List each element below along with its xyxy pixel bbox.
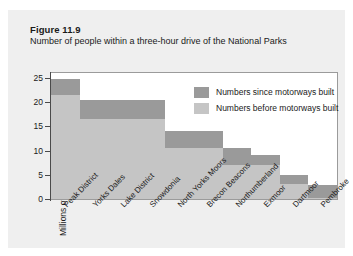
y-axis-tick-label: 15 — [34, 121, 43, 131]
legend-swatch-since — [194, 87, 209, 98]
bar-segment-since — [165, 131, 194, 148]
chart-legend: Numbers since motorways built Numbers be… — [194, 86, 338, 118]
y-axis-tick — [45, 175, 50, 176]
bar-column — [51, 73, 80, 199]
y-axis: 0510152025 — [50, 72, 51, 200]
y-axis-title-wrap: Millions of people within a 3 hour drive — [30, 76, 42, 200]
y-axis-tick — [45, 126, 50, 127]
y-axis-tick-label: 0 — [38, 194, 43, 204]
legend-item: Numbers since motorways built — [194, 86, 338, 98]
legend-item: Numbers before motorways built — [194, 102, 338, 114]
legend-label-since: Numbers since motorways built — [216, 87, 334, 98]
bar-segment-since — [51, 79, 80, 95]
bar-segment-since — [137, 100, 166, 119]
bar-segment-since — [194, 131, 223, 148]
bar-segment-since — [280, 175, 309, 185]
legend-swatch-before — [194, 103, 209, 114]
y-axis-tick — [45, 151, 50, 152]
y-axis-tick — [45, 102, 50, 103]
bar-segment-since — [108, 100, 137, 119]
y-axis-tick-label: 5 — [38, 170, 43, 180]
x-axis-labels: Peak DistrictYorks DalesLake DistrictSno… — [50, 203, 338, 256]
y-axis-tick — [45, 78, 50, 79]
y-axis-tick-label: 20 — [34, 97, 43, 107]
figure-card: Figure 11.9 Number of people within a th… — [8, 10, 345, 248]
legend-label-before: Numbers before motorways built — [216, 103, 338, 114]
y-axis-tick — [45, 199, 50, 200]
y-axis-tick-label: 10 — [34, 146, 43, 156]
figure-caption: Number of people within a three-hour dri… — [30, 36, 330, 48]
bar-segment-before — [51, 95, 80, 199]
bar-segment-since — [80, 100, 109, 119]
y-axis-tick-label: 25 — [34, 73, 43, 83]
figure-number-label: Figure 11.9 — [30, 24, 81, 35]
